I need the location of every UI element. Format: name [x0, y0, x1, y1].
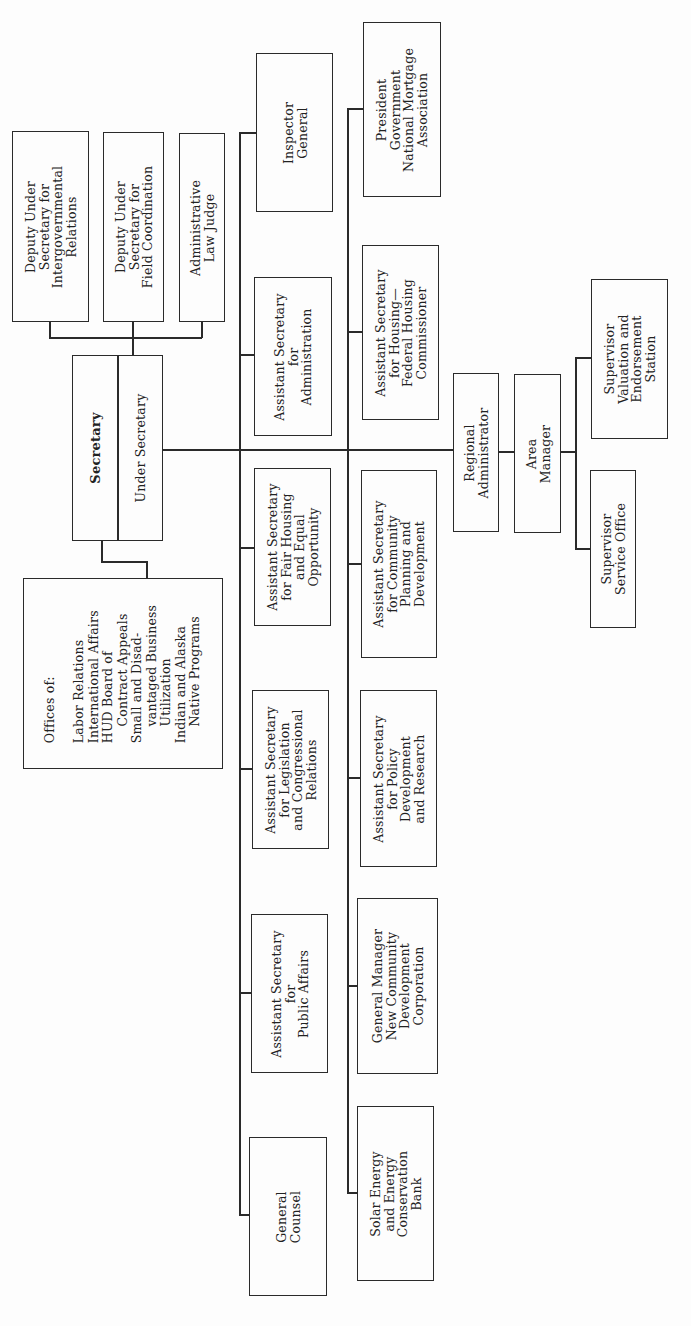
box-label: Supervisor Service Office — [600, 503, 627, 595]
connector — [575, 357, 592, 359]
connector — [101, 540, 103, 562]
connector — [347, 777, 361, 779]
org-box-solar-energy-bank: Solar Energy and Energy Conservation Ban… — [357, 1106, 434, 1281]
org-box-regional-administrator: Regional Administrator — [453, 373, 499, 532]
org-box-area-manager: Area Manager — [514, 374, 561, 533]
org-box-offices-of: Offices of: Labor Relations Internationa… — [23, 578, 223, 769]
org-box-asst-sec-public-affairs: Assistant Secretary for Public Affairs — [251, 914, 328, 1073]
org-box-asst-sec-fair-housing: Assistant Secretary for Fair Housing and… — [254, 468, 331, 626]
box-label: Assistant Secretary for Legislation and … — [264, 706, 318, 833]
box-label: Assistant Secretary for Fair Housing and… — [266, 483, 320, 610]
org-box-president-gnma: President Government National Mortgage A… — [363, 22, 441, 197]
org-box-asst-sec-cpd: Assistant Secretary for Community Planni… — [361, 470, 437, 658]
box-label: Solar Energy and Energy Conservation Ban… — [369, 1150, 423, 1236]
box-label: Supervisor Valuation and Endorsement Sta… — [603, 314, 657, 404]
connector — [101, 561, 147, 563]
connector — [49, 337, 202, 339]
connector — [162, 449, 454, 451]
org-box-supervisor-service-office: Supervisor Service Office — [590, 470, 636, 628]
org-box-secretary: Secretary Under Secretary — [72, 355, 163, 541]
org-box-deputy-field-coordination: Deputy Under Secretary for Field Coordin… — [103, 132, 164, 322]
connector — [49, 320, 51, 338]
secretary-label: Secretary — [89, 412, 103, 483]
box-label: President Government National Mortgage A… — [375, 48, 429, 172]
connector — [347, 563, 362, 565]
org-box-asst-sec-legislation: Assistant Secretary for Legislation and … — [252, 690, 329, 849]
box-label: General Counsel — [275, 1190, 302, 1242]
org-box-inspector-general: Inspector General — [256, 53, 333, 212]
connector — [239, 132, 241, 1215]
connector — [146, 561, 148, 579]
under-secretary-label: Under Secretary — [134, 394, 148, 503]
org-box-administrative-law-judge: Administrative Law Judge — [179, 133, 225, 322]
org-box-asst-sec-policy: Assistant Secretary for Policy Developme… — [360, 690, 437, 867]
box-label: Inspector General — [281, 101, 308, 163]
box-label: Assistant Secretary for Public Affairs — [269, 930, 310, 1057]
org-box-gm-ncdc: General Manager New Community Developmen… — [357, 898, 438, 1074]
org-box-asst-sec-administration: Assistant Secretary for Administration — [254, 277, 332, 436]
connector — [347, 108, 349, 1193]
box-label: Offices of: Labor Relations Internationa… — [43, 604, 203, 742]
connector — [560, 451, 575, 453]
box-label: Deputy Under Secretary for Field Coordin… — [113, 166, 154, 288]
box-label: Assistant Secretary for Policy Developme… — [372, 715, 426, 842]
connector — [575, 357, 577, 549]
connector — [347, 108, 364, 110]
box-label: Regional Administrator — [463, 407, 490, 498]
connector — [239, 547, 255, 549]
box-label: Deputy Under Secretary for Intergovernme… — [24, 165, 78, 288]
box-label: Assistant Secretary for Community Planni… — [372, 500, 426, 627]
connector — [498, 451, 515, 453]
box-label: Area Manager — [524, 424, 551, 483]
org-box-deputy-intergovernmental: Deputy Under Secretary for Intergovernme… — [12, 131, 89, 322]
box-label: Assistant Secretary for Housing— Federal… — [374, 269, 428, 396]
org-box-supervisor-valuation: Supervisor Valuation and Endorsement Sta… — [591, 279, 668, 439]
connector — [239, 132, 257, 134]
connector — [575, 548, 591, 550]
org-box-general-counsel: General Counsel — [249, 1137, 327, 1296]
box-label: Assistant Secretary for Administration — [273, 293, 314, 420]
connector — [201, 320, 203, 338]
connector — [347, 331, 363, 333]
org-box-asst-sec-housing: Assistant Secretary for Housing— Federal… — [362, 245, 439, 420]
box-label: Administrative Law Judge — [189, 179, 216, 275]
box-label: General Manager New Community Developmen… — [371, 929, 425, 1043]
